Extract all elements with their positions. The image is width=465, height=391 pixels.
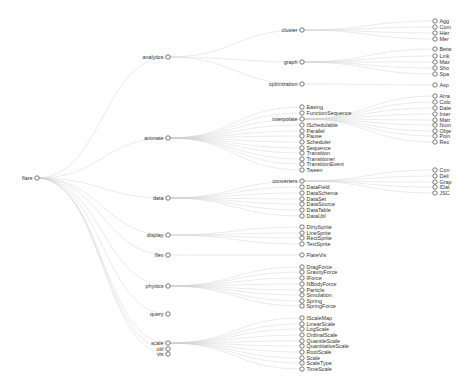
node-circle-icon[interactable]: [300, 162, 304, 166]
tree-node-cluster[interactable]: cluster: [282, 27, 305, 33]
node-circle-icon[interactable]: [166, 284, 170, 288]
node-circle-icon[interactable]: [300, 288, 304, 292]
node-circle-icon[interactable]: [300, 316, 304, 320]
node-circle-icon[interactable]: [166, 136, 170, 140]
tree-node-functionsequence[interactable]: FunctionSequence: [300, 110, 352, 116]
node-circle-icon[interactable]: [433, 83, 437, 87]
tree-node-converters[interactable]: converters: [272, 178, 304, 184]
node-circle-icon[interactable]: [300, 60, 304, 64]
tree-node-asp[interactable]: Asp: [433, 82, 449, 88]
node-circle-icon[interactable]: [433, 123, 437, 127]
node-circle-icon[interactable]: [166, 253, 170, 257]
node-circle-icon[interactable]: [300, 276, 304, 280]
node-circle-icon[interactable]: [433, 174, 437, 178]
node-circle-icon[interactable]: [35, 176, 39, 180]
node-circle-icon[interactable]: [300, 140, 304, 144]
node-circle-icon[interactable]: [300, 82, 304, 86]
node-circle-icon[interactable]: [300, 28, 304, 32]
tree-node-flex[interactable]: flex: [155, 252, 170, 258]
node-circle-icon[interactable]: [300, 117, 304, 121]
node-circle-icon[interactable]: [300, 111, 304, 115]
node-circle-icon[interactable]: [433, 185, 437, 189]
node-circle-icon[interactable]: [433, 37, 437, 41]
node-circle-icon[interactable]: [433, 72, 437, 76]
node-circle-icon[interactable]: [166, 312, 170, 316]
tree-node-spa[interactable]: Spa: [433, 71, 449, 77]
node-circle-icon[interactable]: [433, 140, 437, 144]
node-circle-icon[interactable]: [433, 129, 437, 133]
node-circle-icon[interactable]: [433, 100, 437, 104]
node-circle-icon[interactable]: [433, 66, 437, 70]
node-circle-icon[interactable]: [300, 236, 304, 240]
node-circle-icon[interactable]: [300, 299, 304, 303]
node-circle-icon[interactable]: [166, 233, 170, 237]
node-circle-icon[interactable]: [300, 129, 304, 133]
node-circle-icon[interactable]: [300, 134, 304, 138]
node-circle-icon[interactable]: [300, 191, 304, 195]
node-circle-icon[interactable]: [300, 327, 304, 331]
node-circle-icon[interactable]: [300, 231, 304, 235]
node-circle-icon[interactable]: [433, 168, 437, 172]
node-circle-icon[interactable]: [300, 253, 304, 257]
tree-node-query[interactable]: query: [150, 311, 170, 317]
node-circle-icon[interactable]: [166, 341, 170, 345]
tree-node-flare[interactable]: flare: [22, 175, 39, 181]
node-circle-icon[interactable]: [300, 344, 304, 348]
tree-node-physics[interactable]: physics: [146, 283, 171, 289]
node-circle-icon[interactable]: [300, 242, 304, 246]
node-circle-icon[interactable]: [300, 350, 304, 354]
node-circle-icon[interactable]: [166, 347, 170, 351]
node-circle-icon[interactable]: [300, 214, 304, 218]
node-circle-icon[interactable]: [433, 19, 437, 23]
node-circle-icon[interactable]: [300, 185, 304, 189]
node-circle-icon[interactable]: [300, 146, 304, 150]
node-circle-icon[interactable]: [433, 191, 437, 195]
node-circle-icon[interactable]: [433, 47, 437, 51]
node-circle-icon[interactable]: [300, 367, 304, 371]
node-circle-icon[interactable]: [300, 339, 304, 343]
tree-node-tween[interactable]: Tween: [300, 167, 323, 173]
node-circle-icon[interactable]: [300, 197, 304, 201]
node-circle-icon[interactable]: [300, 304, 304, 308]
node-circle-icon[interactable]: [166, 55, 170, 59]
node-circle-icon[interactable]: [433, 106, 437, 110]
node-circle-icon[interactable]: [300, 168, 304, 172]
node-circle-icon[interactable]: [300, 265, 304, 269]
node-circle-icon[interactable]: [300, 270, 304, 274]
node-circle-icon[interactable]: [433, 54, 437, 58]
node-circle-icon[interactable]: [300, 361, 304, 365]
node-circle-icon[interactable]: [433, 25, 437, 29]
tree-node-display[interactable]: display: [147, 232, 170, 238]
tree-node-rec[interactable]: Rec: [433, 139, 450, 145]
node-circle-icon[interactable]: [433, 180, 437, 184]
node-circle-icon[interactable]: [300, 333, 304, 337]
tree-node-animate[interactable]: animate: [144, 135, 170, 141]
tree-node-datautil[interactable]: DataUtil: [300, 213, 326, 219]
tree-node-graph[interactable]: graph: [284, 59, 304, 65]
tree-node-jsc[interactable]: JSC: [433, 190, 450, 196]
node-circle-icon[interactable]: [166, 352, 170, 356]
node-circle-icon[interactable]: [300, 179, 304, 183]
tree-node-analytics[interactable]: analytics: [143, 54, 171, 60]
node-circle-icon[interactable]: [433, 94, 437, 98]
tree-node-betw[interactable]: Betw: [433, 46, 452, 52]
node-circle-icon[interactable]: [433, 60, 437, 64]
node-circle-icon[interactable]: [300, 208, 304, 212]
node-circle-icon[interactable]: [433, 112, 437, 116]
tree-node-textsprite[interactable]: TextSprite: [300, 241, 331, 247]
node-circle-icon[interactable]: [300, 282, 304, 286]
tree-node-flarevis[interactable]: FlareVis: [300, 252, 327, 258]
node-circle-icon[interactable]: [300, 293, 304, 297]
node-circle-icon[interactable]: [433, 134, 437, 138]
node-circle-icon[interactable]: [433, 118, 437, 122]
node-circle-icon[interactable]: [300, 105, 304, 109]
node-circle-icon[interactable]: [300, 322, 304, 326]
node-circle-icon[interactable]: [300, 157, 304, 161]
node-circle-icon[interactable]: [300, 123, 304, 127]
tree-node-mer[interactable]: Mer: [433, 36, 449, 42]
node-circle-icon[interactable]: [433, 31, 437, 35]
node-circle-icon[interactable]: [300, 202, 304, 206]
node-circle-icon[interactable]: [300, 151, 304, 155]
node-circle-icon[interactable]: [300, 225, 304, 229]
tree-node-springforce[interactable]: SpringForce: [300, 303, 336, 309]
